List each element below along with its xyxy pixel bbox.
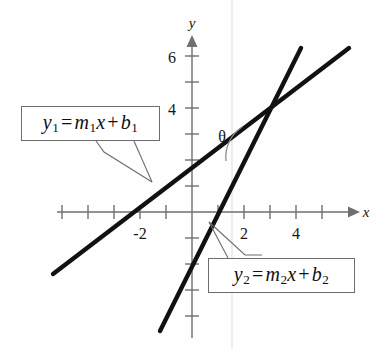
eq1-b-sub: 1 — [131, 120, 138, 135]
eq1-b-var: b — [121, 111, 131, 133]
y-tick-label-6: 6 — [168, 49, 176, 66]
eq2-b-sub: 2 — [322, 272, 329, 287]
eq1-x-var: x — [96, 111, 105, 133]
y-tick-label-4: 4 — [168, 101, 176, 118]
line-y1 — [53, 48, 349, 274]
eq2-x-var: x — [287, 263, 296, 285]
x-tick-label-2: 2 — [240, 225, 248, 242]
x-axis-arrowhead — [348, 207, 360, 218]
x-tick-label-4: 4 — [292, 225, 300, 242]
y-axis-label: y — [187, 15, 196, 31]
equation-y2: y2=m2x+b2 — [227, 263, 336, 289]
eq2-y-var: y — [234, 263, 243, 285]
eq1-m-var: m — [75, 111, 90, 133]
y-axis-arrowhead — [187, 35, 198, 47]
eq2-b-var: b — [312, 263, 322, 285]
eq1-equals: = — [59, 111, 74, 133]
eq1-y-var: y — [43, 111, 52, 133]
eq2-m-var: m — [266, 263, 281, 285]
x-axis-label: x — [362, 204, 370, 220]
theta-label: θ — [218, 128, 226, 145]
eq1-y-sub: 1 — [52, 120, 59, 135]
eq2-equals: = — [250, 263, 265, 285]
eq1-plus: + — [105, 111, 120, 133]
callout-box-y1: y1=m1x+b1 — [21, 106, 160, 141]
coordinate-plot: 6 4 -2 2 4 x y θ — [0, 0, 386, 348]
eq2-plus: + — [296, 263, 311, 285]
x-tick-label-neg2: -2 — [133, 225, 146, 242]
callout-box-y2: y2=m2x+b2 — [208, 258, 355, 293]
figure-container: 6 4 -2 2 4 x y θ y1=m1x+b1 y2=m2x+b2 — [0, 0, 386, 348]
equation-y1: y1=m1x+b1 — [36, 111, 145, 137]
eq2-y-sub: 2 — [243, 272, 250, 287]
callout-1-leader — [96, 141, 152, 182]
callout-2-leader — [209, 222, 262, 258]
